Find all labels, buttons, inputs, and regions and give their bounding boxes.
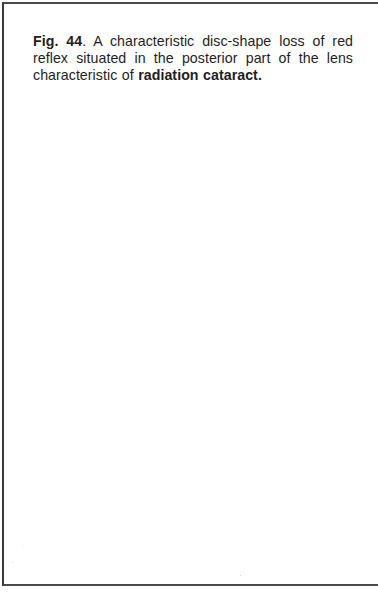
caption-end-punctuation: .	[258, 67, 262, 83]
figure-caption: Fig. 44. A characteristic disc-shape los…	[33, 33, 353, 84]
scan-speck	[12, 562, 13, 563]
caption-emphasis: radiation cataract	[138, 67, 258, 83]
figure-frame	[2, 2, 378, 586]
figure-label: Fig. 44	[33, 33, 82, 49]
scan-speck	[240, 575, 241, 576]
scan-speck	[22, 545, 23, 546]
